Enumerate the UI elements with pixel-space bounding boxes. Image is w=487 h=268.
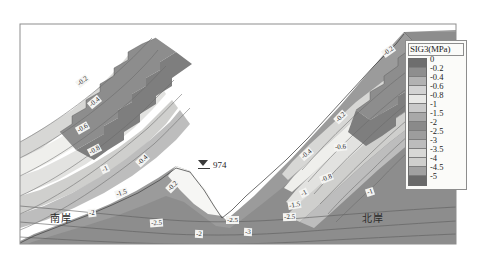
water-level-triangle-icon bbox=[198, 160, 208, 166]
contour-label: -2.5 bbox=[283, 213, 296, 221]
water-level-annotation: 974 bbox=[198, 160, 227, 170]
legend-swatch bbox=[409, 131, 426, 140]
legend-swatch bbox=[409, 176, 426, 185]
legend-swatch bbox=[409, 104, 426, 113]
legend-swatch bbox=[409, 77, 426, 86]
legend-swatch bbox=[409, 158, 426, 167]
south-bank-label: 南岸 bbox=[50, 210, 72, 225]
figure-canvas: 974 南岸 北岸 -0.2-0.4-0.6-0.8-1-1.5-0.4-0.2… bbox=[0, 0, 487, 268]
legend-swatch bbox=[409, 122, 426, 131]
water-level-line bbox=[198, 168, 210, 169]
legend-tick-label: -5 bbox=[430, 172, 437, 181]
contour-label: -2 bbox=[195, 230, 203, 238]
legend-swatch bbox=[409, 113, 426, 122]
legend-swatch bbox=[409, 68, 426, 77]
contour-label: -2.5 bbox=[226, 216, 239, 224]
contour-label: -0.6 bbox=[334, 142, 348, 151]
contour-label: -2.5 bbox=[150, 219, 164, 228]
legend-swatch bbox=[409, 149, 426, 158]
legend-swatch bbox=[409, 86, 426, 95]
north-bank-label: 北岸 bbox=[362, 210, 384, 225]
legend-swatch-column bbox=[408, 58, 427, 186]
legend-swatch bbox=[409, 95, 426, 104]
legend-swatch bbox=[409, 59, 426, 68]
legend-tick-column: 0-0.2-0.4-0.6-0.8-1-1.5-2-2.5-3-3.5-4-4.… bbox=[430, 58, 464, 184]
legend-swatch bbox=[409, 167, 426, 176]
legend-title: SIG3(MPa) bbox=[408, 43, 464, 56]
legend-panel: SIG3(MPa) 0-0.2-0.4-0.6-0.8-1-1.5-2-2.5-… bbox=[405, 40, 467, 190]
legend-swatch bbox=[409, 140, 426, 149]
contour-label: -3 bbox=[244, 228, 252, 236]
water-level-value: 974 bbox=[213, 160, 227, 170]
contour-label: -2 bbox=[87, 208, 96, 217]
